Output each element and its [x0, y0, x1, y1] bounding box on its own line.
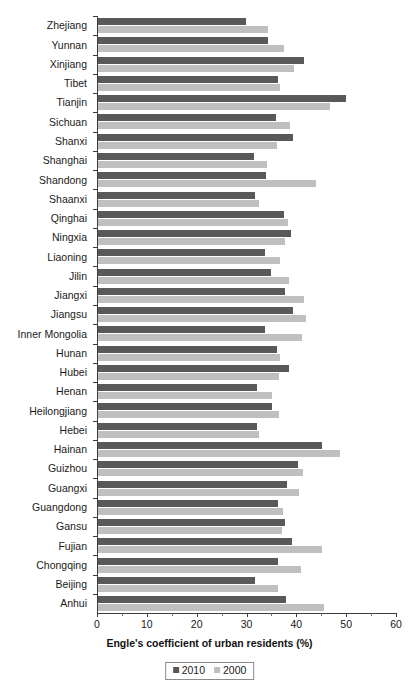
- bar-2010: [98, 423, 257, 430]
- legend-swatch-icon: [173, 667, 179, 673]
- y-axis-label: Qinghai: [0, 209, 92, 228]
- bar-2010: [98, 500, 278, 507]
- bar-2000: [98, 238, 285, 245]
- y-axis-label: Guangdong: [0, 498, 92, 517]
- x-axis-tick: [147, 613, 148, 617]
- bar-2000: [98, 354, 280, 361]
- bar-row: [98, 55, 396, 74]
- bar-row: [98, 112, 396, 131]
- bar-2000: [98, 142, 277, 149]
- x-axis-tick-label: 60: [390, 619, 402, 630]
- bar-2010: [98, 76, 278, 83]
- x-axis-title: Engle's coefficient of urban residents (…: [0, 637, 419, 649]
- bar-row: [98, 189, 396, 208]
- bar-row: [98, 170, 396, 189]
- bar-row: [98, 286, 396, 305]
- x-axis-tick-label: 30: [241, 619, 253, 630]
- bar-2000: [98, 373, 279, 380]
- y-axis-labels: ZhejiangYunnanXinjiangTibetTianjinSichua…: [0, 16, 92, 613]
- bar-2000: [98, 161, 267, 168]
- y-axis-label: Jiangxi: [0, 286, 92, 305]
- bar-row: [98, 132, 396, 151]
- y-axis-label: Shandong: [0, 170, 92, 189]
- bar-row: [98, 305, 396, 324]
- bar-2010: [98, 288, 285, 295]
- bar-2000: [98, 392, 272, 399]
- bar-rows: [98, 16, 396, 613]
- x-axis-minor-tick: [172, 613, 173, 616]
- x-axis-tick: [247, 613, 248, 617]
- bar-2000: [98, 219, 288, 226]
- y-axis-label: Ningxia: [0, 228, 92, 247]
- bar-2010: [98, 481, 287, 488]
- y-axis-label: Hainan: [0, 440, 92, 459]
- y-axis-label: Liaoning: [0, 247, 92, 266]
- bar-2010: [98, 153, 254, 160]
- bar-2000: [98, 45, 284, 52]
- bar-2000: [98, 122, 290, 129]
- bar-row: [98, 478, 396, 497]
- bar-row: [98, 16, 396, 35]
- legend-label: 2000: [223, 665, 246, 676]
- bar-2000: [98, 257, 280, 264]
- bar-2000: [98, 65, 294, 72]
- bar-row: [98, 536, 396, 555]
- bar-row: [98, 35, 396, 54]
- bar-row: [98, 74, 396, 93]
- y-axis-label: Hubei: [0, 363, 92, 382]
- bar-2010: [98, 538, 292, 545]
- bar-row: [98, 151, 396, 170]
- chart-legend: 20102000: [165, 662, 255, 680]
- y-axis-label: Sichuan: [0, 112, 92, 131]
- y-axis-label: Guangxi: [0, 478, 92, 497]
- bar-row: [98, 555, 396, 574]
- bar-2010: [98, 269, 271, 276]
- bar-2010: [98, 192, 255, 199]
- y-axis-label: Hebei: [0, 421, 92, 440]
- bar-2010: [98, 577, 255, 584]
- bar-2010: [98, 365, 289, 372]
- bar-2000: [98, 566, 301, 573]
- engle-coefficient-bar-chart: ZhejiangYunnanXinjiangTibetTianjinSichua…: [0, 0, 419, 687]
- bar-row: [98, 498, 396, 517]
- bar-2000: [98, 26, 268, 33]
- bar-2000: [98, 431, 259, 438]
- bar-2010: [98, 442, 322, 449]
- x-axis-tick: [97, 613, 98, 617]
- bar-row: [98, 401, 396, 420]
- y-axis-label: Beijing: [0, 575, 92, 594]
- x-axis-minor-tick: [222, 613, 223, 616]
- bar-2000: [98, 180, 316, 187]
- y-axis-label: Fujian: [0, 536, 92, 555]
- bar-2000: [98, 469, 303, 476]
- y-axis-label: Jiangsu: [0, 305, 92, 324]
- y-axis-label: Yunnan: [0, 35, 92, 54]
- legend-swatch-icon: [214, 667, 220, 673]
- x-axis-tick-label: 20: [191, 619, 203, 630]
- y-axis-label: Tibet: [0, 74, 92, 93]
- bar-2000: [98, 546, 322, 553]
- x-axis-minor-tick: [321, 613, 322, 616]
- bar-2000: [98, 200, 259, 207]
- bar-2010: [98, 134, 293, 141]
- y-axis-label: Hunan: [0, 344, 92, 363]
- y-axis-label: Anhui: [0, 594, 92, 613]
- bar-2000: [98, 585, 278, 592]
- bar-2000: [98, 84, 280, 91]
- bar-2010: [98, 18, 246, 25]
- y-axis-label: Zhejiang: [0, 16, 92, 35]
- x-axis-tick-label: 10: [141, 619, 153, 630]
- plot-area: [97, 16, 396, 613]
- x-axis-minor-tick: [371, 613, 372, 616]
- y-axis-label: Chongqing: [0, 555, 92, 574]
- bar-2000: [98, 277, 289, 284]
- bar-2000: [98, 315, 306, 322]
- y-axis-label: Heilongjiang: [0, 401, 92, 420]
- bar-2010: [98, 461, 298, 468]
- bar-row: [98, 228, 396, 247]
- bar-2010: [98, 326, 265, 333]
- x-axis-minor-tick: [122, 613, 123, 616]
- bar-2010: [98, 95, 346, 102]
- bar-2010: [98, 307, 293, 314]
- bar-2010: [98, 57, 304, 64]
